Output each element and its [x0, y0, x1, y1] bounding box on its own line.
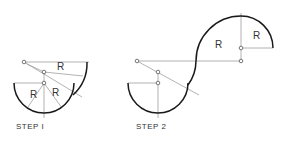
step-1-caption: STEP I	[16, 123, 44, 131]
point-a	[135, 59, 139, 63]
step-2-arcs	[128, 16, 273, 113]
step-2-radius-label-left: R	[215, 40, 222, 50]
step-2-points	[135, 46, 243, 85]
point-d	[239, 46, 243, 50]
point-b	[42, 70, 46, 74]
radius-line-upper	[44, 72, 83, 76]
lower-right-arc	[188, 61, 196, 85]
step-2-construction-lines	[128, 13, 273, 118]
step-2-caption: STEP 2	[136, 123, 166, 131]
point-b	[156, 70, 160, 74]
diagonal-line	[137, 61, 199, 95]
point-e	[239, 59, 243, 63]
step-1-points	[22, 60, 46, 85]
point-a	[22, 60, 26, 64]
step-2-radius-label-right: R	[253, 31, 260, 41]
step-1-radius-label-left: R	[30, 90, 37, 100]
right-arc	[73, 62, 87, 95]
point-c	[42, 81, 46, 85]
point-c	[156, 81, 160, 85]
connector-line	[27, 64, 44, 72]
step-1-radius-label-upper: R	[57, 62, 64, 72]
step-2-figure	[128, 13, 273, 118]
construction-diagram	[0, 0, 283, 142]
step-1-arcs	[14, 62, 87, 113]
step-1-radius-label-right: R	[52, 88, 59, 98]
